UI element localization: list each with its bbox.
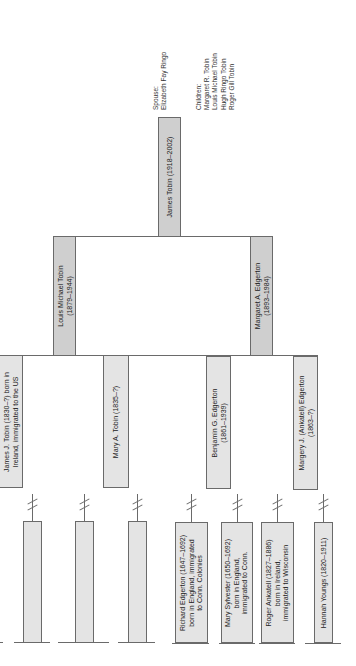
person-box-father[interactable]: Louis Michael Tobin (1879–1944): [53, 236, 76, 356]
ancestor-box-empty[interactable]: [23, 521, 42, 643]
person-details: Ireland, immigrated to the US: [11, 372, 20, 472]
person-details: immigrated to Wisconsin: [282, 539, 291, 626]
person-name: James J. Tobin (1830–?) born in: [3, 372, 12, 472]
person-dates: (1893–1984): [262, 263, 271, 330]
person-name: Roger Ankatell (1827–1886): [265, 539, 274, 626]
person-name: Mary Sylvester (1650–1692): [224, 539, 233, 627]
person-details: born in England,: [233, 539, 242, 627]
ancestor-box[interactable]: Hannah Youngs (1820–1911): [314, 522, 333, 643]
person-details: born in Ireland,: [273, 539, 282, 626]
child-item: Roger Gill Tobin: [228, 53, 236, 110]
child-item: Margaret R. Tobin: [203, 53, 211, 110]
base-line: [305, 643, 341, 644]
ancestor-box[interactable]: Richard Edgerton (1647–1692) born in Eng…: [175, 522, 208, 643]
base-line: [219, 643, 255, 644]
person-dates: (1879–1944): [65, 265, 74, 326]
person-box-mother[interactable]: Margaret A. Edgerton (1893–1984): [250, 236, 273, 356]
children-label: Children:: [195, 53, 203, 110]
child-item: Louis Michael Tobin: [211, 53, 219, 110]
person-box-grandparent[interactable]: Mary A. Tobin (1835–?): [103, 355, 129, 488]
base-line: [14, 642, 50, 643]
spouse-note: Spouse: Elizabeth Fay Ringo: [152, 52, 168, 110]
person-name: Richard Edgerton (1647–1692): [179, 534, 188, 630]
connector-line: [0, 355, 318, 356]
ancestor-box[interactable]: Mary Sylvester (1650–1692) born in Engla…: [221, 522, 253, 643]
person-name: Benjamin G. Edgerton: [210, 388, 219, 457]
ancestor-box[interactable]: Roger Ankatell (1827–1886) born in Irela…: [261, 522, 294, 643]
base-line: [58, 642, 109, 643]
person-name: Louis Michael Tobin: [56, 265, 65, 326]
person-box-grandparent[interactable]: James J. Tobin (1830–?) born in Ireland,…: [0, 355, 23, 488]
children-note: Children: Margaret R. Tobin Louis Michae…: [195, 53, 236, 110]
person-name: James Tobin (1918–2002): [165, 137, 174, 218]
person-dates: (1863–?): [306, 376, 315, 471]
person-box-grandparent[interactable]: Margery J. (Ankatell) Edgerton (1863–?): [293, 356, 318, 490]
child-item: Hugh Ringo Tobin: [220, 53, 228, 110]
person-details: immigrated to Conn.: [241, 539, 250, 627]
person-name: Hannah Youngs (1820–1911): [319, 537, 328, 628]
person-details: to Conn. Colonies: [196, 534, 205, 630]
person-name: Mary A. Tobin (1835–?): [112, 385, 121, 457]
spouse-label: Spouse:: [152, 52, 160, 110]
base-line: [172, 643, 209, 644]
connector-line: [53, 236, 273, 237]
base-line: [259, 643, 295, 644]
person-name: Margery J. (Ankatell) Edgerton: [297, 376, 306, 471]
ancestor-box-empty[interactable]: [75, 521, 94, 643]
ancestor-box-empty[interactable]: [128, 521, 147, 643]
base-line: [0, 642, 3, 643]
person-details: born in England, immigrated: [187, 534, 196, 630]
spouse-name: Elizabeth Fay Ringo: [160, 52, 168, 110]
person-name: Margaret A. Edgerton: [253, 263, 262, 330]
person-box-grandparent[interactable]: Benjamin G. Edgerton (1861–1939): [206, 356, 231, 489]
person-dates: (1861–1939): [219, 388, 228, 457]
base-line: [118, 642, 155, 643]
person-box-root[interactable]: James Tobin (1918–2002): [158, 117, 181, 237]
